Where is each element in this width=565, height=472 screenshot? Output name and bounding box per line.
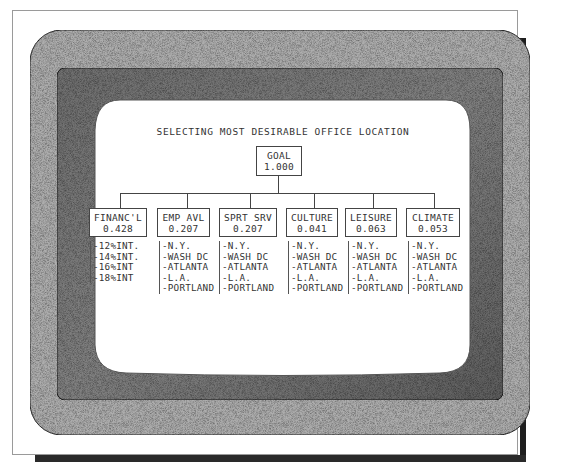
criterion-weight: 0.063 <box>346 223 396 234</box>
alternative-item: -N.Y. <box>411 241 463 252</box>
alternative-item: -N.Y. <box>222 241 274 252</box>
alternative-item: -PORTLAND <box>162 283 214 294</box>
criterion-connector <box>434 193 435 208</box>
criterion-weight: 0.207 <box>158 223 209 234</box>
alternatives-list: -12%INT.-14%INT.-16%INT-18%INT <box>90 241 139 283</box>
diagram-title: SELECTING MOST DESIRABLE OFFICE LOCATION <box>95 126 471 137</box>
criterion-weight: 0.207 <box>220 223 276 234</box>
alternative-item: -N.Y. <box>291 241 343 252</box>
alternative-item: -18%INT <box>93 273 139 284</box>
goal-weight: 1.000 <box>257 161 301 172</box>
criteria-bus <box>120 193 434 194</box>
criterion-connector <box>187 193 188 208</box>
criterion-connector <box>120 193 121 208</box>
criterion-node[interactable]: LEISURE0.063 <box>345 208 397 237</box>
criterion-weight: 0.041 <box>287 223 337 234</box>
criterion-weight: 0.428 <box>90 223 146 234</box>
alternative-item: -N.Y. <box>351 241 403 252</box>
alternatives-list: -N.Y.-WASH DC-ATLANTA-L.A.-PORTLAND <box>348 241 403 294</box>
goal-node[interactable]: GOAL 1.000 <box>256 146 302 176</box>
criterion-connector <box>314 193 315 208</box>
criterion-connector <box>373 193 374 208</box>
alternative-item: -12%INT. <box>93 241 139 252</box>
criterion-label: CLIMATE <box>407 212 459 223</box>
alternative-item: -PORTLAND <box>351 283 403 294</box>
criterion-label: EMP AVL <box>158 212 209 223</box>
criterion-node[interactable]: CLIMATE0.053 <box>406 208 460 237</box>
alternative-item: -N.Y. <box>162 241 214 252</box>
alternative-item: -PORTLAND <box>222 283 274 294</box>
alternative-item: -PORTLAND <box>411 283 463 294</box>
criterion-node[interactable]: CULTURE0.041 <box>286 208 338 237</box>
goal-connector <box>278 176 279 193</box>
goal-label: GOAL <box>257 150 301 161</box>
hierarchy-diagram: SELECTING MOST DESIRABLE OFFICE LOCATION… <box>95 100 471 375</box>
criterion-label: LEISURE <box>346 212 396 223</box>
criterion-node[interactable]: FINANC'L0.428 <box>89 208 147 237</box>
alternative-item: -PORTLAND <box>291 283 343 294</box>
alternatives-list: -N.Y.-WASH DC-ATLANTA-L.A.-PORTLAND <box>408 241 463 294</box>
alternatives-list: -N.Y.-WASH DC-ATLANTA-L.A.-PORTLAND <box>288 241 343 294</box>
alternatives-list: -N.Y.-WASH DC-ATLANTA-L.A.-PORTLAND <box>219 241 274 294</box>
alternatives-list: -N.Y.-WASH DC-ATLANTA-L.A.-PORTLAND <box>159 241 214 294</box>
criterion-connector <box>250 193 251 208</box>
criterion-label: CULTURE <box>287 212 337 223</box>
criterion-weight: 0.053 <box>407 223 459 234</box>
criterion-label: FINANC'L <box>90 212 146 223</box>
criterion-node[interactable]: SPRT SRV0.207 <box>219 208 277 237</box>
criterion-node[interactable]: EMP AVL0.207 <box>157 208 210 237</box>
criterion-label: SPRT SRV <box>220 212 276 223</box>
